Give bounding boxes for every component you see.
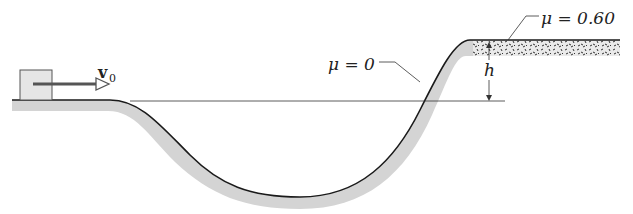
- mu-frictionless-leader: [379, 62, 420, 82]
- velocity-subscript: 0: [109, 72, 116, 85]
- height-label: h: [484, 60, 495, 80]
- velocity-label: v: [97, 63, 108, 82]
- mu-rough-label: μ = 0.60: [541, 8, 615, 28]
- mu-rough-leader: [508, 16, 539, 40]
- physics-diagram: v 0 μ = 0 μ = 0.60 h: [0, 0, 633, 214]
- rough-surface: [473, 40, 620, 56]
- track-shadow: [12, 40, 475, 209]
- mu-frictionless-label: μ = 0: [328, 54, 375, 74]
